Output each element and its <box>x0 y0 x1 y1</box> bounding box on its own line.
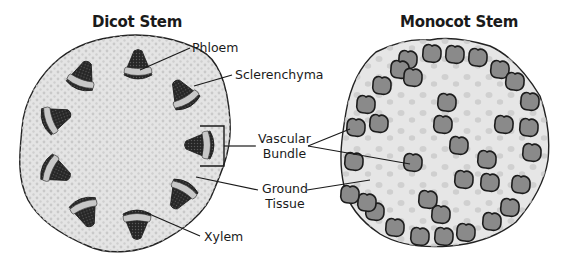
vascular-bundle-label: Vascular Bundle <box>258 131 311 161</box>
monocot-vascular-bundle <box>419 191 437 209</box>
sclerenchyma-label: Sclerenchyma <box>235 67 323 82</box>
vascular-bundle-label-line2: Bundle <box>258 146 311 161</box>
monocot-vascular-bundle <box>411 228 429 246</box>
monocot-vascular-bundle <box>455 171 473 189</box>
monocot-vascular-bundle <box>478 151 496 169</box>
monocot-vascular-bundle <box>438 94 456 112</box>
monocot-vascular-bundle <box>521 93 539 111</box>
monocot-vascular-bundle <box>341 186 359 204</box>
monocot-vascular-bundle <box>404 69 422 87</box>
ground-tissue-label-line1: Ground <box>262 181 308 196</box>
monocot-vascular-bundle <box>501 199 519 217</box>
monocot-vascular-bundle <box>435 228 453 246</box>
monocot-vascular-bundle <box>481 174 499 192</box>
monocot-vascular-bundle <box>434 116 452 134</box>
ground-tissue-label-line2: Tissue <box>262 196 308 211</box>
monocot-vascular-bundle <box>347 119 365 137</box>
monocot-vascular-bundle <box>370 115 388 133</box>
stem-cross-section-diagram: Dicot Stem Monocot Stem Phloem Sclerench… <box>0 0 571 266</box>
monocot-stem <box>341 38 549 246</box>
monocot-vascular-bundle <box>423 45 441 63</box>
monocot-vascular-bundle <box>357 96 375 114</box>
monocot-vascular-bundle <box>432 206 450 224</box>
vascular-bundle-label-line1: Vascular <box>258 131 311 146</box>
dicot-stem <box>20 35 231 252</box>
xylem-label: Xylem <box>204 229 243 244</box>
monocot-vascular-bundle <box>469 49 487 67</box>
monocot-vascular-bundle <box>446 46 464 64</box>
ground-tissue-label: Ground Tissue <box>262 181 308 211</box>
monocot-stem-title: Monocot Stem <box>400 13 518 31</box>
phloem-label: Phloem <box>192 40 238 55</box>
monocot-vascular-bundle <box>506 73 524 91</box>
monocot-vascular-bundle <box>450 137 468 155</box>
monocot-vascular-bundle <box>386 219 404 237</box>
monocot-vascular-bundle <box>457 224 475 242</box>
monocot-vascular-bundle <box>373 77 391 95</box>
monocot-vascular-bundle <box>520 119 538 137</box>
monocot-vascular-bundle <box>495 116 513 134</box>
monocot-vascular-bundle <box>358 194 376 212</box>
monocot-vascular-bundle <box>523 144 541 162</box>
monocot-vascular-bundle <box>483 213 501 231</box>
dicot-stem-title: Dicot Stem <box>92 13 182 31</box>
monocot-vascular-bundle <box>404 154 422 172</box>
monocot-vascular-bundle <box>512 176 530 194</box>
